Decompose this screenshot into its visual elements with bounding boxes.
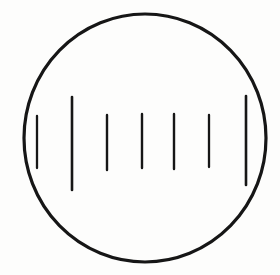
field-of-view-circle [24, 14, 266, 262]
reticle-diagram [0, 0, 280, 275]
reticle-figure [0, 0, 280, 275]
